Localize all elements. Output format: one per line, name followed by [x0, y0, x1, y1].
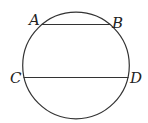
label-b: B — [111, 14, 123, 32]
geometry-diagram: A B C D — [0, 0, 148, 123]
label-c: C — [10, 69, 22, 87]
label-d: D — [129, 69, 142, 87]
label-a: A — [27, 11, 40, 29]
